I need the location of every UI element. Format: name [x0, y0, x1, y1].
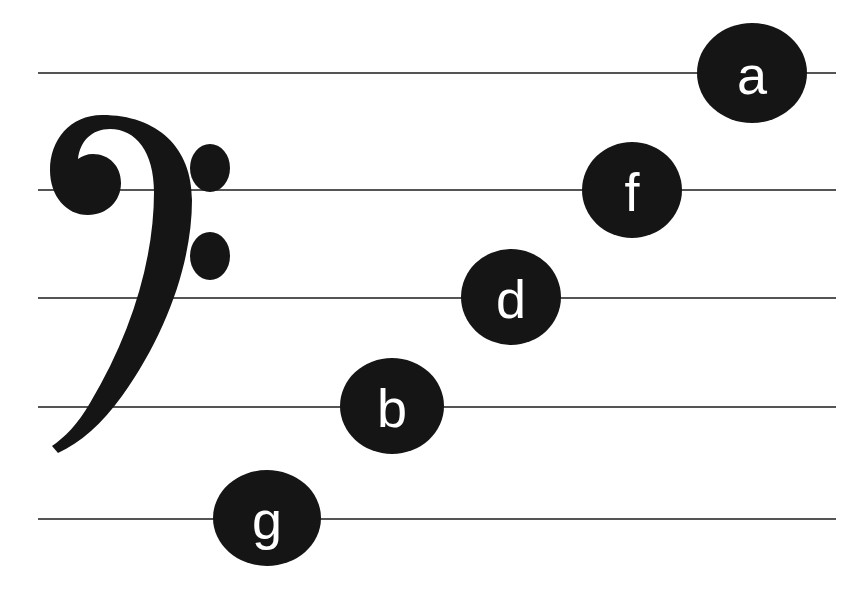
- bass-clef-icon: [44, 108, 234, 453]
- music-staff-canvas: afdbg: [0, 0, 865, 604]
- note-head[interactable]: g: [213, 470, 321, 566]
- note-head[interactable]: d: [461, 249, 561, 345]
- note-head[interactable]: a: [697, 23, 807, 123]
- note-head[interactable]: f: [582, 142, 682, 238]
- note-label: f: [624, 165, 639, 219]
- note-label: d: [496, 272, 526, 326]
- note-label: g: [252, 493, 282, 547]
- note-label: a: [737, 48, 767, 102]
- staff-line-5: [38, 518, 836, 520]
- note-head[interactable]: b: [340, 358, 444, 454]
- note-label: b: [377, 381, 407, 435]
